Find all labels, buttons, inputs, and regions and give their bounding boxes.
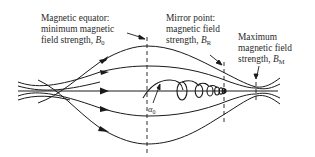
- maximum-label-line2: magnetic field: [238, 43, 292, 54]
- arrow-icon: [99, 58, 108, 64]
- arrow-icon: [98, 126, 109, 132]
- maximum-label-line1: Maximum: [238, 32, 292, 43]
- equator-label-line1: Magnetic equator:: [41, 13, 114, 24]
- arrow-icon: [157, 84, 160, 90]
- mirror-point-label: Mirror point: magnetic field strength, B…: [166, 13, 220, 48]
- alpha-pointer: [153, 87, 159, 103]
- equator-label-line3: field strength, B0: [41, 35, 114, 48]
- arrow-icon: [254, 74, 258, 79]
- maximum-field-label: Maximum magnetic field strength, BM: [238, 32, 292, 67]
- arrow-icon: [139, 35, 145, 39]
- equator-label: Magnetic equator: minimum magnetic field…: [41, 13, 114, 48]
- maximum-label-line3: strength, BM: [238, 54, 292, 67]
- mirror-label-line1: Mirror point:: [166, 13, 220, 24]
- pitch-angle-label: α0: [148, 104, 155, 115]
- mirror-point-dot: [223, 89, 226, 94]
- field-line-upper-inner: [18, 66, 256, 88]
- field-arrows: [98, 56, 109, 132]
- mirror-label-line2: magnetic field: [166, 24, 220, 35]
- equator-label-line2: minimum magnetic: [41, 24, 114, 35]
- mirror-label-line3: strength, BR: [166, 35, 220, 48]
- arrow-icon: [100, 106, 109, 112]
- arrow-icon: [100, 88, 109, 95]
